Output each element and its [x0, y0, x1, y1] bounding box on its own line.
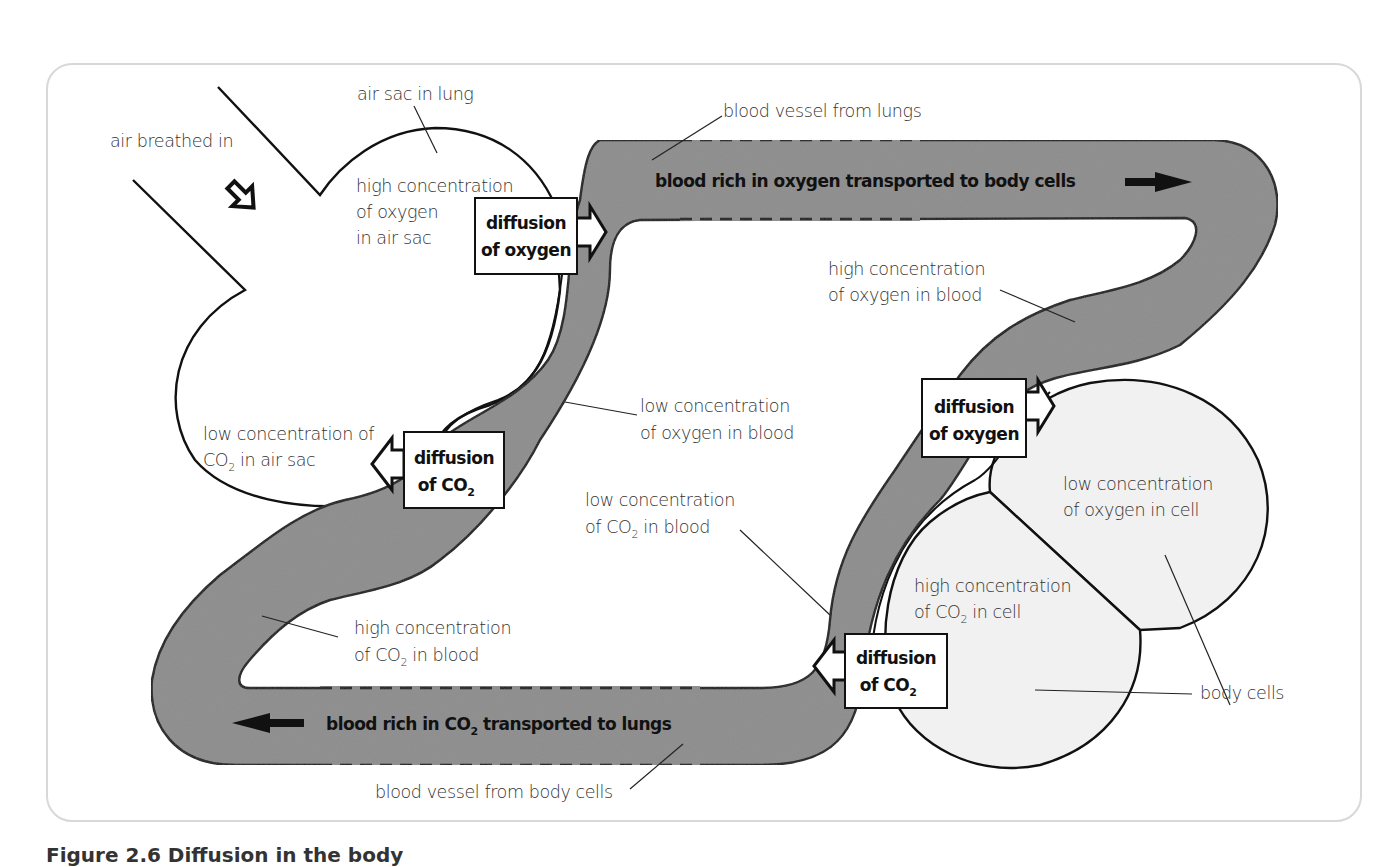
- label-blood-vessel-from-lungs: blood vessel from lungs: [723, 101, 921, 121]
- label-low-o2-blood-1: low concentration: [640, 396, 790, 416]
- label-blood-vessel-from-body: blood vessel from body cells: [375, 782, 613, 802]
- box-text: of oxygen: [929, 424, 1019, 444]
- label-high-co2-blood-2: of CO2 in blood: [354, 645, 479, 669]
- label-low-o2-cell-1: low concentration: [1063, 474, 1213, 494]
- box-text: diffusion: [486, 213, 566, 233]
- label-low-o2-blood-2: of oxygen in blood: [640, 423, 794, 443]
- box-text: diffusion: [414, 448, 494, 468]
- label-low-co2-blood-1: low concentration: [585, 490, 735, 510]
- label-low-o2-cell-2: of oxygen in cell: [1063, 500, 1199, 520]
- label-high-o2-blood-2: of oxygen in blood: [828, 285, 982, 305]
- label-air-breathed-in: air breathed in: [110, 131, 233, 151]
- label-high-o2-air-sac-2: of oxygen: [356, 202, 438, 222]
- label-low-co2-blood-2: of CO2 in blood: [585, 517, 710, 541]
- label-air-sac-in-lung: air sac in lung: [357, 84, 473, 104]
- box-text: of oxygen: [481, 240, 571, 260]
- label-high-co2-blood-1: high concentration: [354, 618, 511, 638]
- label-high-co2-cell-1: high concentration: [914, 576, 1071, 596]
- box-text: diffusion: [934, 397, 1014, 417]
- box-text: diffusion: [856, 648, 936, 668]
- label-high-o2-air-sac-3: in air sac: [356, 228, 431, 248]
- label-blood-rich-oxygen: blood rich in oxygen transported to body…: [655, 171, 1076, 191]
- label-body-cells: body cells: [1200, 683, 1284, 703]
- figure-caption: Figure 2.6 Diffusion in the body: [46, 843, 403, 867]
- label-high-o2-air-sac-1: high concentration: [356, 176, 513, 196]
- label-low-co2-air-sac-1: low concentration of: [203, 424, 375, 444]
- label-high-o2-blood-1: high concentration: [828, 259, 985, 279]
